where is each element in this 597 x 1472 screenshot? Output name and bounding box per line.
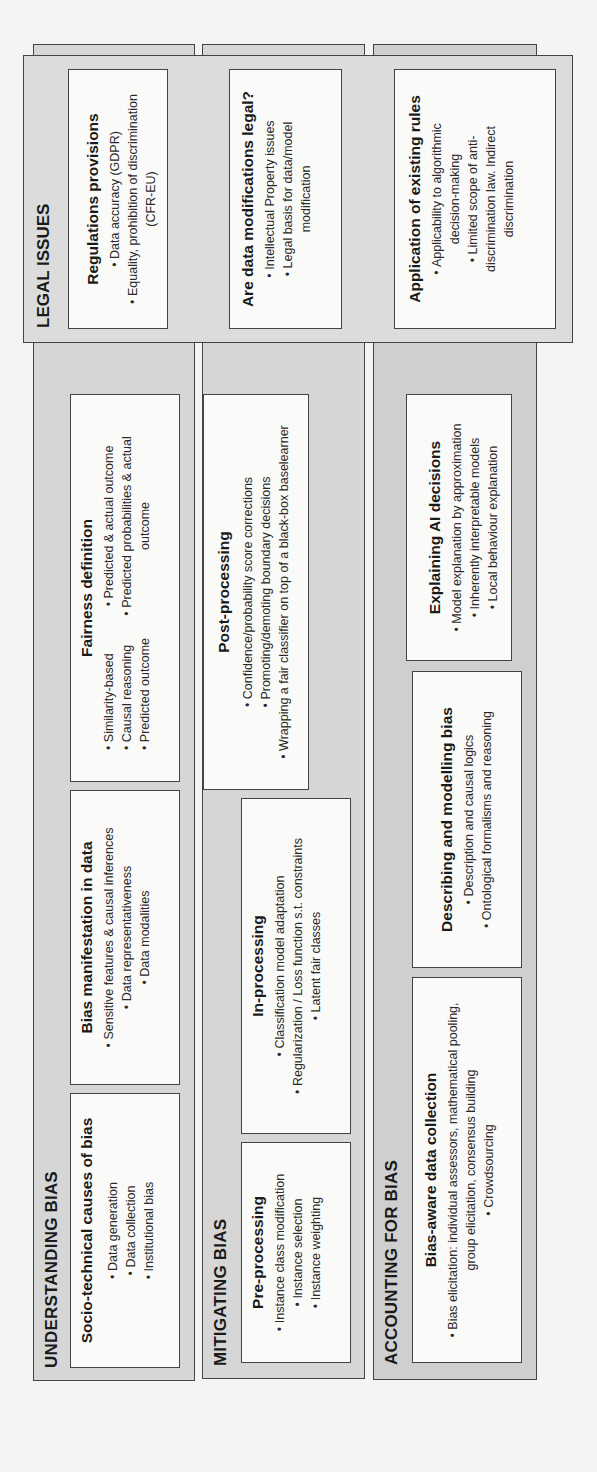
- list-item: Promoting/demoting boundary decisions: [257, 395, 275, 789]
- list-item: Causal reasoning: [118, 638, 136, 750]
- box-title: Bias-aware data collection: [421, 978, 440, 1362]
- list-item: Equality, prohibition of discrimination …: [124, 80, 160, 318]
- box-title: In-processing: [248, 799, 267, 1133]
- list-item: Crowdsourcing: [480, 992, 498, 1348]
- list-item: Description and causal logics: [460, 672, 478, 967]
- list-item: Wrapping a fair classifier on top of a b…: [275, 395, 293, 789]
- box-title: Explaining AI decisions: [425, 395, 444, 660]
- list-item: Limited scope of anti-discrimination law…: [464, 110, 518, 288]
- list-item: Regularization / Loss function s.t. cons…: [289, 799, 307, 1133]
- post-processing-box: Post-processing Confidence/probability s…: [203, 394, 309, 790]
- list-item: Inherently interpretable models: [466, 395, 484, 660]
- list-item: Predicted probabilities & actual outcome: [118, 426, 154, 626]
- describing-modelling-bias-box: Describing and modelling bias Descriptio…: [412, 671, 522, 968]
- legal-issues-panel: LEGAL ISSUES Regulations provisions Data…: [23, 55, 573, 343]
- list-item: Ontological formalisms and reasoning: [478, 672, 496, 967]
- list-item: Confidence/probability score corrections: [239, 395, 257, 789]
- mitigating-bias-title: MITIGATING BIAS: [211, 1219, 231, 1366]
- box-title: Socio-technical causes of bias: [77, 1094, 96, 1367]
- box-title: Fairness definition: [77, 395, 96, 781]
- list-item: Data accuracy (GDPR): [106, 80, 124, 318]
- bias-taxonomy-diagram: UNDERSTANDING BIAS Socio-technical cause…: [0, 0, 597, 1472]
- list-item: Legal basis for data/model modification: [279, 90, 315, 308]
- data-modifications-legal-box: Are data modifications legal? Intellectu…: [229, 69, 342, 329]
- list-item: Data representativeness: [118, 791, 136, 1084]
- list-item: Classification model adaptation: [271, 799, 289, 1133]
- socio-technical-causes-box: Socio-technical causes of bias Data gene…: [70, 1093, 180, 1368]
- list-item: Instance weighting: [307, 1143, 325, 1362]
- list-item: Instance class modification: [271, 1143, 289, 1362]
- pre-processing-box: Pre-processing Instance class modificati…: [241, 1142, 351, 1363]
- list-item: Instance selection: [289, 1143, 307, 1362]
- list-item: Data generation: [104, 1094, 122, 1367]
- application-existing-rules-box: Application of existing rules Applicabil…: [394, 69, 556, 329]
- box-title: Are data modifications legal?: [238, 70, 257, 328]
- in-processing-box: In-processing Classification model adapt…: [241, 798, 351, 1134]
- regulations-provisions-box: Regulations provisions Data accuracy (GD…: [68, 69, 168, 329]
- fairness-definition-box: Fairness definition Similarity-based Cau…: [70, 394, 180, 782]
- list-item: Latent fair classes: [307, 799, 325, 1133]
- list-item: Sensitive features & causal inferences: [100, 791, 118, 1084]
- list-item: Institutional bias: [140, 1094, 158, 1367]
- box-title: Post-processing: [214, 395, 233, 789]
- list-item: Data modalities: [136, 791, 154, 1084]
- list-item: Predicted & actual outcome: [100, 426, 118, 626]
- list-item: Data collection: [122, 1094, 140, 1367]
- list-item: Intellectual Property issues: [261, 90, 279, 308]
- list-item: Predicted outcome: [136, 638, 154, 750]
- explaining-ai-decisions-box: Explaining AI decisions Model explanatio…: [406, 394, 512, 661]
- list-item: Similarity-based: [100, 638, 118, 750]
- list-item: Model explanation by approximation: [448, 395, 466, 660]
- list-item: Applicability to algorithmic decision-ma…: [428, 110, 464, 288]
- understanding-bias-title: UNDERSTANDING BIAS: [42, 1171, 62, 1368]
- list-item: Bias elicitation: individual assessors, …: [444, 992, 480, 1348]
- box-title: Pre-processing: [248, 1143, 267, 1362]
- bias-manifestation-box: Bias manifestation in data Sensitive fea…: [70, 790, 180, 1085]
- box-title: Application of existing rules: [405, 70, 424, 328]
- list-item: Local behaviour explanation: [484, 395, 502, 660]
- box-title: Bias manifestation in data: [77, 791, 96, 1084]
- bias-aware-data-collection-box: Bias-aware data collection Bias elicitat…: [412, 977, 522, 1363]
- box-title: Describing and modelling bias: [437, 672, 456, 967]
- box-title: Regulations provisions: [83, 70, 102, 328]
- legal-issues-title: LEGAL ISSUES: [34, 204, 54, 328]
- accounting-for-bias-title: ACCOUNTING FOR BIAS: [382, 1160, 402, 1365]
